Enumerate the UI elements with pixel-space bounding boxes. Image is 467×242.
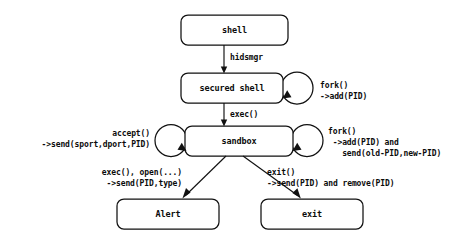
edge-label-sandbox-fork-line1: fork() [328,127,356,138]
edge-label-hidsmgr: hidsmgr [230,53,263,64]
node-sandbox-label: sandbox [221,136,256,147]
edge-label-exec: exec() [230,110,258,121]
node-alert-label: Alert [155,209,180,220]
edge-label-sandbox-to-alert-line2: ->send(PID,type) [107,179,182,190]
edge-label-sandbox-to-exit-line1: exit() [267,168,295,179]
secured-shell-self-loop-circle [281,72,313,104]
edge-label-secured-shell-fork-line2: ->add(PID) [320,92,367,103]
node-exit-label: exit [302,209,322,220]
edge-sandbox-to-alert-arrowhead [182,188,190,199]
edge-label-sandbox-fork-line3: send(old-PID,new-PID) [328,149,441,160]
edge-label-sandbox-to-exit-line2: ->send(PID) and remove(PID) [267,179,394,190]
edge-label-sandbox-accept-line2: ->send(sport,dport,PID) [42,140,150,151]
sandbox-self-loop-left-circle [155,125,187,157]
edge-sandbox-to-exit-arrowhead [292,188,300,198]
sandbox-self-loop-right-circle [291,125,323,157]
edge-sandbox-to-alert-line [186,156,226,195]
edge-label-sandbox-to-alert-line1: exec(), open(...) [102,168,182,179]
diagram-canvas [0,0,467,242]
node-shell-label: shell [222,25,247,36]
state-diagram: shell secured shell sandbox Alert exit h… [0,0,467,242]
edge-label-sandbox-accept-line1: accept() [112,129,150,140]
edge-label-secured-shell-fork-line1: fork() [320,81,348,92]
edge-label-sandbox-fork-line2: ->add(PID) and [328,138,399,149]
node-secured-shell-label: secured shell [199,83,264,94]
